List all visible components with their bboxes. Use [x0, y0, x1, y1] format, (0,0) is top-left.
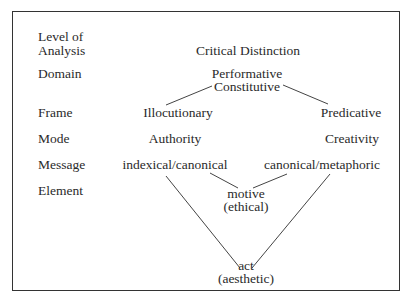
edge-constitutive-illocutionary: [166, 86, 212, 105]
row-label-message: Message: [38, 157, 85, 172]
node-constitutive: Constitutive: [214, 79, 280, 94]
row-label-level-line2: Analysis: [38, 43, 85, 58]
node-canonical-metaphoric: canonical/metaphoric: [264, 157, 380, 172]
node-authority: Authority: [149, 131, 202, 146]
node-aesthetic: (aesthetic): [218, 271, 274, 286]
row-label-domain: Domain: [38, 66, 82, 81]
row-label-mode: Mode: [38, 131, 70, 146]
node-creativity: Creativity: [325, 131, 379, 146]
edge-constitutive-predicative: [283, 85, 328, 104]
node-predicative: Predicative: [321, 105, 382, 120]
node-illocutionary: Illocutionary: [143, 105, 213, 120]
row-label-frame: Frame: [38, 105, 73, 120]
node-indexical-canonical: indexical/canonical: [123, 157, 228, 172]
node-critical-distinction: Critical Distinction: [196, 43, 300, 58]
node-ethical: (ethical): [224, 199, 269, 214]
row-label-element: Element: [38, 183, 83, 198]
row-label-level-line1: Level of: [38, 29, 83, 44]
